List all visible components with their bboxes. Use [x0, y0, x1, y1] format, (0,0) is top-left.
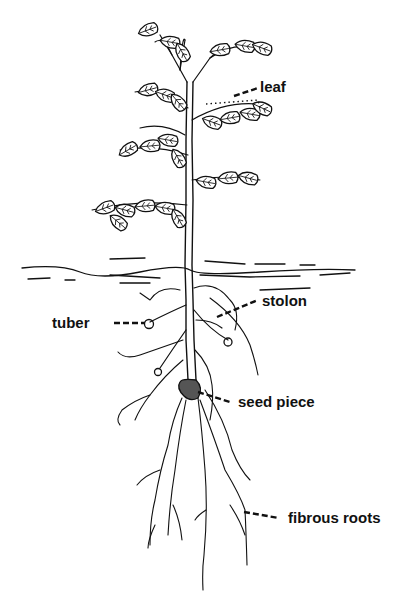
leaflet — [168, 146, 188, 169]
tuber-3 — [155, 369, 162, 376]
potato-plant-diagram: leaf stolon tuber seed piece fibrous roo… — [0, 0, 400, 600]
leaflet — [195, 175, 217, 190]
tuber-2 — [224, 338, 232, 346]
leaflet — [137, 21, 160, 39]
leaflet — [135, 199, 156, 212]
tuber-1 — [145, 320, 154, 329]
label-tuber: tuber — [52, 314, 90, 331]
label-seed-piece: seed piece — [238, 393, 315, 410]
leaflet — [251, 39, 274, 57]
label-fibrous-roots: fibrous roots — [288, 509, 381, 526]
leaflet — [94, 199, 117, 217]
seed-piece — [179, 379, 201, 399]
label-stolon: stolon — [262, 292, 307, 309]
roots-and-stolons — [118, 286, 258, 590]
leaves — [92, 21, 274, 233]
leaflet — [237, 170, 259, 186]
label-leaf: leaf — [260, 78, 287, 95]
leaflet — [201, 113, 224, 131]
leaflet — [140, 139, 161, 152]
branch — [140, 126, 185, 135]
soil-surface — [22, 258, 355, 290]
leaflet — [137, 82, 159, 98]
leader-lines — [114, 88, 279, 518]
leaflet — [218, 171, 239, 184]
